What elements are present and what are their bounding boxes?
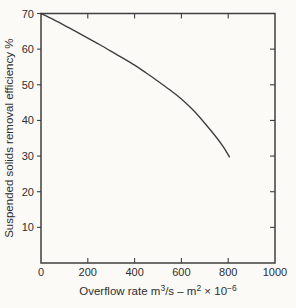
y-tick-label: 50 bbox=[22, 79, 34, 91]
axis-tick-labels: 0200400600800100010203040506070 bbox=[22, 8, 287, 279]
figure: 0200400600800100010203040506070 Suspende… bbox=[0, 0, 296, 308]
x-tick-label: 200 bbox=[79, 266, 97, 278]
x-axis-label: Overflow rate m3/s – m2 × 10−6 bbox=[79, 283, 237, 297]
y-tick-label: 70 bbox=[22, 8, 34, 20]
y-tick-label: 10 bbox=[22, 221, 34, 233]
y-axis-label: Suspended solids removal efficiency % bbox=[3, 39, 15, 238]
y-tick-label: 30 bbox=[22, 150, 34, 162]
x-tick-label: 0 bbox=[38, 266, 44, 278]
plot-frame bbox=[41, 14, 275, 264]
y-tick-label: 60 bbox=[22, 43, 34, 55]
x-tick-label: 1000 bbox=[263, 266, 287, 278]
axis-ticks bbox=[37, 14, 275, 264]
efficiency-curve bbox=[41, 14, 229, 157]
y-tick-label: 20 bbox=[22, 186, 34, 198]
y-tick-label: 40 bbox=[22, 114, 34, 126]
x-tick-label: 400 bbox=[125, 266, 143, 278]
x-tick-label: 800 bbox=[219, 266, 237, 278]
x-tick-label: 600 bbox=[172, 266, 190, 278]
efficiency-vs-overflow-chart: 0200400600800100010203040506070 Suspende… bbox=[0, 0, 296, 308]
